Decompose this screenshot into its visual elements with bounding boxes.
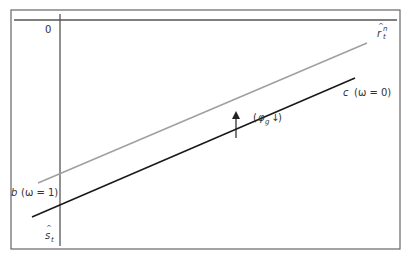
line-c-letter: c — [343, 87, 349, 98]
line-c — [32, 78, 355, 217]
line-b-param: (ω = 1) — [21, 187, 58, 198]
hat-accent: ^ — [46, 224, 52, 232]
shift-arrow-icon — [232, 111, 240, 138]
line-c-label: c (ω = 0) — [343, 87, 391, 98]
annotation-open-paren: ( — [253, 112, 257, 123]
annotation-phi: φ — [258, 112, 265, 123]
line-b-label: b (ω = 1) — [11, 187, 58, 198]
origin-label: 0 — [45, 24, 51, 35]
annotation-close-paren: ) — [278, 112, 282, 123]
line-b — [38, 43, 367, 183]
frame-border — [11, 10, 400, 249]
annotation-subscript: g — [265, 118, 270, 126]
horizontal-axis-label: r ^ n t — [377, 22, 387, 41]
axis-label-s-sub: t — [51, 236, 54, 244]
axis-label-r-sup: n — [383, 25, 387, 33]
line-c-param: (ω = 0) — [354, 87, 391, 98]
diagram-canvas: 0 r ^ n t s ^ t b (ω = 1) c (ω = 0) ( φ … — [0, 0, 408, 261]
shift-annotation: ( φ g ↓ ) — [253, 112, 282, 126]
vertical-axis-label: s ^ t — [45, 224, 54, 244]
line-b-letter: b — [11, 187, 17, 198]
axis-label-r-sub: t — [383, 33, 386, 41]
